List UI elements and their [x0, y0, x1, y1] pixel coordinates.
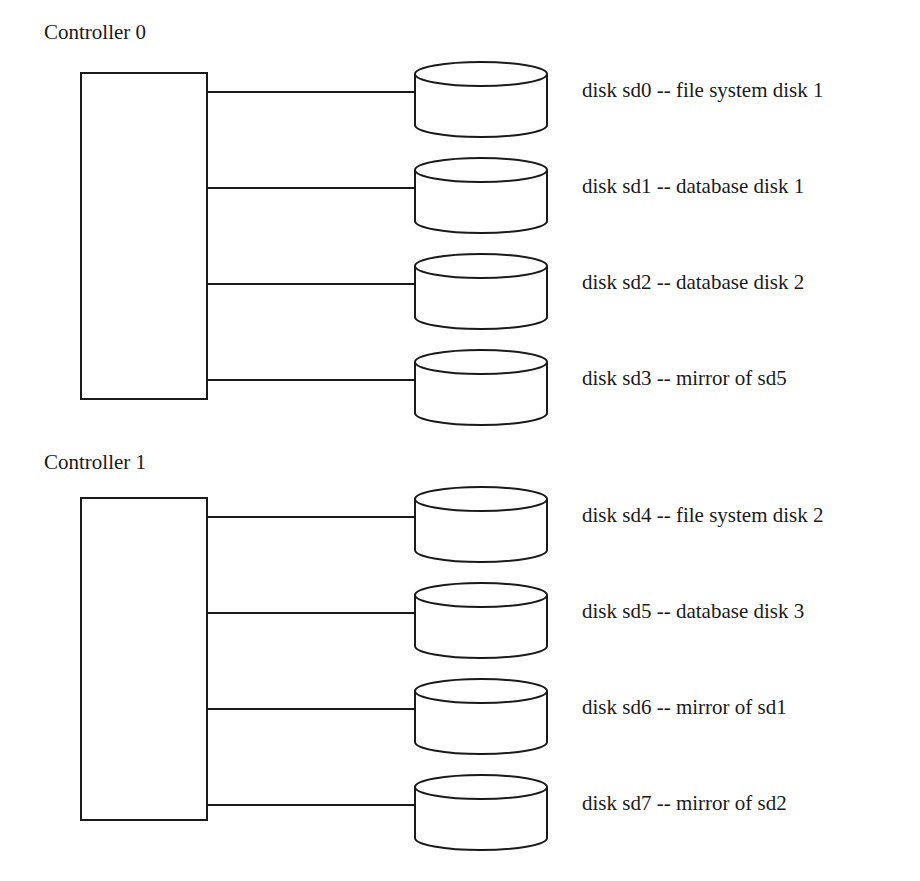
controller-box [81, 498, 207, 820]
disk-sd5-label: disk sd5 -- database disk 3 [582, 601, 804, 622]
disk-sd7-label: disk sd7 -- mirror of sd2 [582, 793, 787, 814]
disk-sd4-label: disk sd4 -- file system disk 2 [582, 505, 824, 526]
disk-sd4-icon [415, 487, 547, 562]
disk-sd3-label: disk sd3 -- mirror of sd5 [582, 368, 787, 389]
disk-controller-diagram [0, 0, 920, 881]
disk-sd2-icon [415, 254, 547, 329]
controller-1-label: Controller 1 [44, 452, 146, 473]
disk-sd1-label: disk sd1 -- database disk 1 [582, 176, 804, 197]
disk-sd6-icon [415, 679, 547, 754]
controller-1 [81, 487, 547, 850]
disk-sd7-icon [415, 775, 547, 850]
disk-sd3-icon [415, 350, 547, 425]
disk-sd0-icon [415, 62, 547, 137]
disk-sd2-label: disk sd2 -- database disk 2 [582, 272, 804, 293]
disk-sd6-label: disk sd6 -- mirror of sd1 [582, 697, 787, 718]
disk-sd1-icon [415, 158, 547, 233]
disk-sd5-icon [415, 583, 547, 658]
controller-0 [81, 62, 547, 425]
disk-sd0-label: disk sd0 -- file system disk 1 [582, 80, 824, 101]
controller-box [81, 73, 207, 399]
controller-0-label: Controller 0 [44, 22, 146, 43]
